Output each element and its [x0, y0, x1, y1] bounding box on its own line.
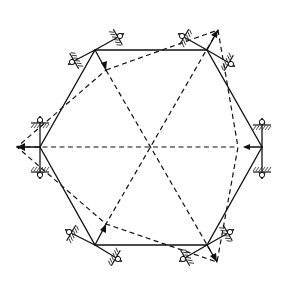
- pin-icon: [228, 61, 233, 66]
- pin-icon: [37, 117, 42, 122]
- pin-icon: [37, 172, 42, 177]
- pin-icon: [259, 172, 264, 177]
- displacement-arrows: [17, 30, 262, 262]
- pin-icon: [179, 33, 184, 38]
- hexagon-linkage-diagram: [0, 0, 286, 287]
- arrow-head-icon: [100, 224, 106, 233]
- pin-icon: [69, 59, 74, 64]
- arrow-head-icon: [17, 143, 25, 151]
- arrow-head-icon: [243, 144, 250, 150]
- pin-icon: [117, 33, 122, 38]
- displaced-polygon: [17, 30, 238, 262]
- pin-icon: [115, 256, 120, 261]
- dashed-diagonals: [17, 30, 238, 262]
- pin-icon: [66, 229, 71, 234]
- pin-icon: [227, 229, 232, 234]
- pin-icon: [259, 119, 264, 124]
- pin-icon: [180, 256, 185, 261]
